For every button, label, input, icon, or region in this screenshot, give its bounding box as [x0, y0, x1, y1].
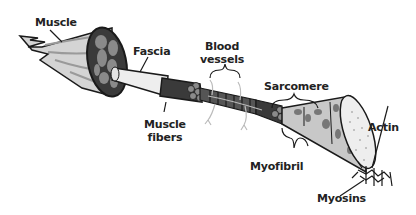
label-fascia: Fascia: [133, 45, 170, 58]
label-muscle-fibers-line1: Muscle: [144, 118, 186, 131]
label-sarcomere: Sarcomere: [264, 80, 329, 93]
label-actin: Actin: [368, 121, 399, 134]
label-blood-vessels-line1: Blood: [200, 40, 244, 53]
label-blood-vessels-line2: vessels: [200, 53, 244, 66]
label-muscle-fibers: Muscle fibers: [144, 118, 186, 144]
label-myofibril: Myofibril: [250, 160, 303, 173]
muscle-fiber-bundle: [160, 78, 204, 102]
label-blood-vessels: Blood vessels: [200, 40, 244, 66]
muscle-belly: [20, 24, 133, 100]
label-myosins: Myosins: [317, 192, 366, 205]
muscle-structure-diagram: [0, 0, 416, 215]
label-muscle-fibers-line2: fibers: [144, 131, 186, 144]
label-muscle: Muscle: [35, 16, 77, 29]
